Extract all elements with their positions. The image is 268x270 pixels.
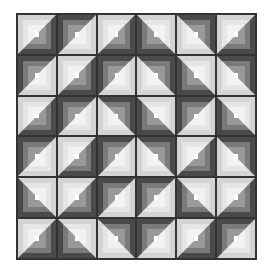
- quilt-block: [97, 96, 137, 137]
- log-ring: [191, 233, 201, 244]
- quilt-block: [97, 136, 137, 177]
- log-ring: [32, 192, 42, 203]
- log-ring: [191, 111, 201, 122]
- quilt-block: [216, 136, 256, 177]
- log-ring: [191, 192, 201, 203]
- log-ring: [151, 192, 161, 203]
- quilt-block: [17, 136, 57, 177]
- quilt-block: [176, 55, 216, 96]
- quilt-block: [176, 218, 216, 259]
- log-ring: [151, 111, 161, 122]
- log-ring: [32, 70, 42, 81]
- log-ring: [72, 111, 82, 122]
- quilt-block: [57, 177, 97, 218]
- log-ring: [231, 151, 241, 162]
- log-ring: [151, 151, 161, 162]
- quilt-block: [216, 96, 256, 137]
- quilt-block: [136, 14, 176, 55]
- quilt-block: [136, 136, 176, 177]
- quilt-block: [136, 55, 176, 96]
- quilt-block: [97, 177, 137, 218]
- quilt-block: [57, 136, 97, 177]
- log-ring: [72, 192, 82, 203]
- quilt-block: [97, 218, 137, 259]
- quilt-block: [136, 218, 176, 259]
- log-ring: [112, 70, 122, 81]
- quilt-block: [97, 14, 137, 55]
- quilt-block: [17, 55, 57, 96]
- log-ring: [112, 151, 122, 162]
- quilt-block: [176, 136, 216, 177]
- log-ring: [112, 192, 122, 203]
- log-ring: [151, 29, 161, 40]
- log-ring: [32, 111, 42, 122]
- quilt-block: [176, 14, 216, 55]
- quilt-block: [97, 55, 137, 96]
- log-ring: [231, 70, 241, 81]
- quilt-block: [216, 218, 256, 259]
- quilt-block: [176, 177, 216, 218]
- quilt-block: [17, 177, 57, 218]
- quilt-block: [57, 96, 97, 137]
- log-ring: [72, 233, 82, 244]
- log-ring: [32, 233, 42, 244]
- quilt-block: [57, 218, 97, 259]
- quilt-block: [57, 55, 97, 96]
- log-ring: [151, 233, 161, 244]
- log-ring: [112, 233, 122, 244]
- log-ring: [151, 70, 161, 81]
- log-ring: [231, 233, 241, 244]
- log-ring: [191, 70, 201, 81]
- quilt-block: [17, 96, 57, 137]
- log-ring: [32, 151, 42, 162]
- log-ring: [72, 151, 82, 162]
- quilt-block: [17, 14, 57, 55]
- log-ring: [32, 29, 42, 40]
- quilt-block: [136, 96, 176, 137]
- log-ring: [231, 192, 241, 203]
- quilt-block: [57, 14, 97, 55]
- quilt-block: [136, 177, 176, 218]
- quilt-block: [17, 218, 57, 259]
- quilt-block: [216, 14, 256, 55]
- log-ring: [191, 151, 201, 162]
- log-ring: [231, 29, 241, 40]
- quilt-block: [216, 55, 256, 96]
- quilt-block: [176, 96, 216, 137]
- log-ring: [72, 70, 82, 81]
- quilt-block: [216, 177, 256, 218]
- log-ring: [191, 29, 201, 40]
- log-ring: [231, 111, 241, 122]
- quilt-grid: [16, 13, 257, 260]
- log-ring: [72, 29, 82, 40]
- log-ring: [112, 111, 122, 122]
- log-ring: [112, 29, 122, 40]
